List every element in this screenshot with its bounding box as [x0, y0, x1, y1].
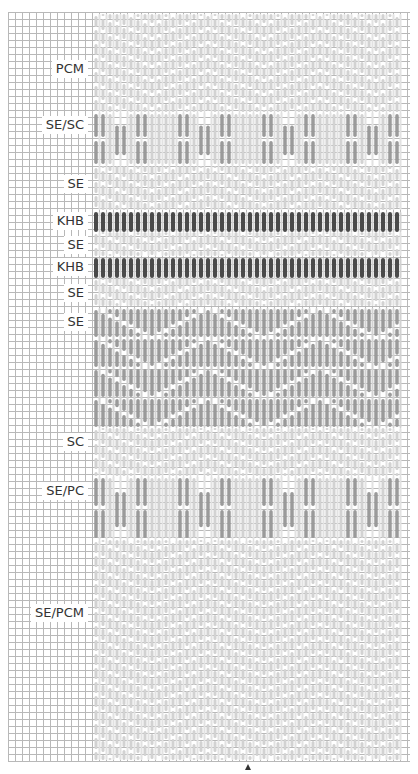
- row-label-sc: SC: [63, 433, 88, 451]
- row-label-khb: KHB: [53, 212, 88, 230]
- row-label-se: SE: [64, 313, 88, 331]
- row-label-se-pc: SE/PC: [42, 482, 88, 500]
- row-label-se: SE: [64, 284, 88, 302]
- row-label-se: SE: [64, 236, 88, 254]
- center-marker-icon: [245, 764, 251, 770]
- row-label-se-sc: SE/SC: [42, 116, 88, 134]
- row-label-se: SE: [64, 175, 88, 193]
- row-label-khb: KHB: [53, 258, 88, 276]
- stitch-pattern: [94, 14, 402, 760]
- row-label-pcm: PCM: [52, 60, 88, 78]
- row-label-se-pcm: SE/PCM: [31, 604, 88, 622]
